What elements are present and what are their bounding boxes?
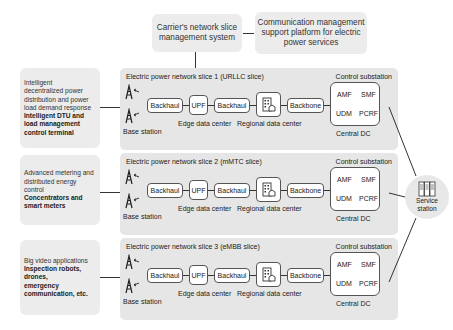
service-station-connectors <box>0 0 453 330</box>
